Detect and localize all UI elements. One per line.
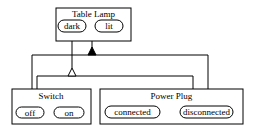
switch-title: Switch — [38, 91, 64, 101]
filled-triangle-icon — [88, 47, 96, 55]
state-lit[interactable]: lit — [95, 20, 123, 32]
power-plug-title: Power Plug — [151, 91, 193, 101]
power-plug-node[interactable]: Power Plug connected disconnected — [100, 89, 243, 124]
state-on-label: on — [65, 108, 75, 118]
state-dark-label: dark — [64, 21, 80, 31]
switch-node[interactable]: Switch off on — [12, 89, 91, 124]
composition-line — [32, 55, 208, 89]
table-lamp-node[interactable]: Table Lamp dark lit — [56, 8, 131, 41]
state-connected-label: connected — [114, 107, 151, 117]
state-dark[interactable]: dark — [58, 20, 86, 32]
state-disconnected[interactable]: disconnected — [180, 106, 233, 118]
statechart-diagram: Table Lamp dark lit Switch off on Power … — [0, 0, 257, 131]
open-triangle-icon — [68, 68, 76, 76]
state-on[interactable]: on — [54, 107, 84, 118]
state-off-label: off — [25, 108, 35, 118]
table-lamp-title: Table Lamp — [72, 9, 116, 19]
state-lit-label: lit — [105, 21, 113, 31]
state-connected[interactable]: connected — [105, 106, 160, 118]
state-disconnected-label: disconnected — [183, 107, 230, 117]
state-off[interactable]: off — [16, 107, 44, 118]
